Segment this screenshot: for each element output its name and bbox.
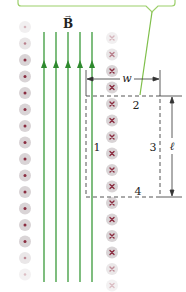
left-wire-column [19, 21, 31, 281]
right-wire-column [106, 32, 118, 292]
side-label-2: 2 [133, 99, 140, 112]
callout-pointer-line [140, 12, 152, 95]
field-label-b: B → [63, 13, 73, 31]
field-arrow-icons [41, 60, 95, 68]
magnetic-field-loop-diagram: B → [0, 0, 186, 292]
length-label: ℓ [170, 140, 175, 153]
side-label-4: 4 [135, 185, 142, 198]
callout-box [18, 0, 175, 95]
side-label-1: 1 [94, 141, 101, 154]
width-label: w [122, 72, 132, 85]
field-lines [44, 32, 92, 282]
side-label-3: 3 [150, 141, 157, 154]
vector-arrow-icon: → [65, 13, 71, 21]
